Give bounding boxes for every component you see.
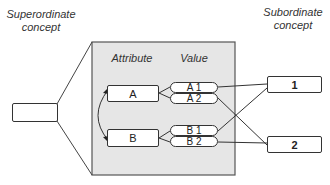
attribute-header: Attribute bbox=[104, 52, 160, 65]
attribute-b-box: B bbox=[107, 129, 159, 147]
superordinate-concept-label: Superordinate concept bbox=[6, 8, 76, 34]
subordinate-concept-label: Subordinate concept bbox=[258, 6, 328, 32]
value-b1-pill: B 1 bbox=[170, 125, 218, 136]
value-header: Value bbox=[168, 52, 220, 65]
value-b2-pill: B 2 bbox=[170, 136, 218, 147]
value-a2-pill: A 2 bbox=[170, 93, 218, 104]
attribute-a-box: A bbox=[107, 85, 159, 102]
value-a1-pill: A 1 bbox=[170, 82, 218, 93]
subordinate-2-box: 2 bbox=[267, 136, 322, 153]
superordinate-box bbox=[12, 103, 58, 122]
subordinate-1-box: 1 bbox=[267, 76, 322, 93]
